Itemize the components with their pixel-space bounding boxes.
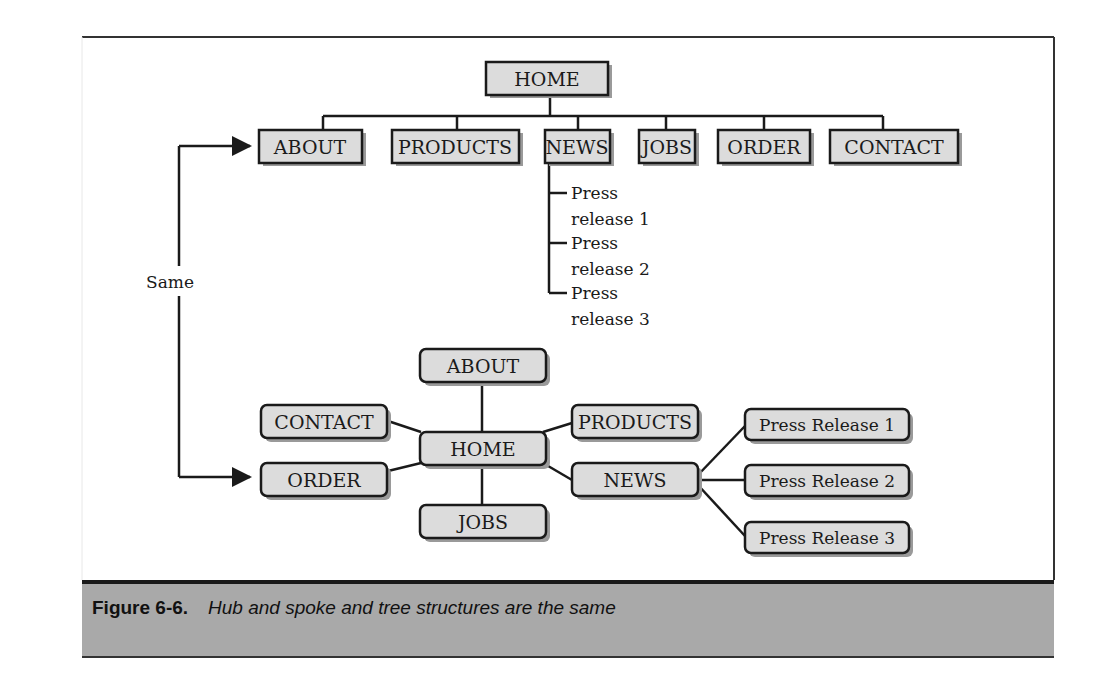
tree-node-products: PRODUCTS <box>392 130 523 166</box>
figure-caption: Figure 6-6.Hub and spoke and tree struct… <box>92 597 616 619</box>
svg-text:Press Release 2: Press Release 2 <box>759 471 895 491</box>
figure-container: HOME ABOUT PRODUCTS NEWS JOBS ORDER <box>0 0 1110 692</box>
hub-press-release-2: Press Release 2 <box>745 465 913 500</box>
svg-text:Press: Press <box>571 233 618 253</box>
tree-news-item-1: Press release 1 <box>571 183 650 229</box>
tree-node-news: NEWS <box>545 130 614 166</box>
svg-text:ABOUT: ABOUT <box>446 355 520 377</box>
svg-text:NEWS: NEWS <box>603 469 666 491</box>
svg-text:release 1: release 1 <box>571 209 650 229</box>
svg-text:JOBS: JOBS <box>456 511 508 533</box>
tree-node-label: HOME <box>514 68 579 90</box>
hub-node-contact: CONTACT <box>261 405 391 442</box>
svg-text:HOME: HOME <box>450 438 515 460</box>
hub-press-release-3: Press Release 3 <box>745 522 913 557</box>
svg-text:ORDER: ORDER <box>287 469 361 491</box>
tree-node-home: HOME <box>486 62 612 98</box>
tree-node-contact: CONTACT <box>830 130 962 166</box>
hub-structure: ABOUT CONTACT HOME ORDER PRODUCTS NEWS <box>261 349 913 557</box>
svg-text:ORDER: ORDER <box>727 136 801 158</box>
figure-caption-text: Hub and spoke and tree structures are th… <box>208 597 616 618</box>
hub-node-products: PRODUCTS <box>572 405 702 442</box>
svg-text:PRODUCTS: PRODUCTS <box>578 411 692 433</box>
tree-node-jobs: JOBS <box>639 130 699 166</box>
svg-text:CONTACT: CONTACT <box>274 411 374 433</box>
tree-structure: HOME ABOUT PRODUCTS NEWS JOBS ORDER <box>259 62 962 329</box>
figure-number: Figure 6-6. <box>92 597 188 618</box>
same-label: Same <box>146 272 194 292</box>
tree-news-item-3: Press release 3 <box>571 283 650 329</box>
hub-press-release-1: Press Release 1 <box>745 409 913 444</box>
svg-text:PRODUCTS: PRODUCTS <box>398 136 512 158</box>
svg-text:CONTACT: CONTACT <box>844 136 944 158</box>
hub-node-jobs: JOBS <box>420 505 550 542</box>
svg-text:Press Release 1: Press Release 1 <box>759 415 895 435</box>
hub-node-about: ABOUT <box>420 349 550 386</box>
hub-node-order: ORDER <box>261 463 391 500</box>
svg-text:ABOUT: ABOUT <box>273 136 347 158</box>
hub-node-home: HOME <box>420 432 550 469</box>
svg-text:Press: Press <box>571 183 618 203</box>
tree-node-about: ABOUT <box>259 130 366 166</box>
svg-text:release 2: release 2 <box>571 259 650 279</box>
tree-node-order: ORDER <box>718 130 814 166</box>
figure-caption-band: Figure 6-6.Hub and spoke and tree struct… <box>82 580 1054 658</box>
svg-text:NEWS: NEWS <box>545 136 608 158</box>
tree-news-item-2: Press release 2 <box>571 233 650 279</box>
svg-text:Press: Press <box>571 283 618 303</box>
hub-node-news: NEWS <box>572 463 702 500</box>
svg-text:release 3: release 3 <box>571 309 650 329</box>
svg-text:Press Release 3: Press Release 3 <box>759 528 895 548</box>
svg-text:JOBS: JOBS <box>640 136 692 158</box>
same-connector: Same <box>146 146 250 477</box>
